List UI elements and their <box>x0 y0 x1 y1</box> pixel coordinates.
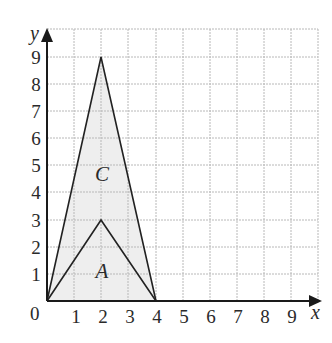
y-tick: 7 <box>31 101 41 122</box>
coordinate-diagram: y x 0 1 2 3 4 5 6 7 8 9 1 2 3 4 5 6 7 8 … <box>0 0 332 343</box>
x-tick: 1 <box>71 306 81 327</box>
x-tick: 8 <box>260 306 270 327</box>
x-tick-labels: 1 2 3 4 5 6 7 8 9 <box>71 306 297 327</box>
x-tick: 4 <box>152 306 162 327</box>
y-tick: 3 <box>31 210 41 231</box>
y-tick: 1 <box>31 264 41 285</box>
y-tick: 4 <box>31 182 41 203</box>
y-tick: 8 <box>31 74 41 95</box>
y-tick: 2 <box>31 237 41 258</box>
x-tick: 2 <box>98 306 108 327</box>
y-axis-label: y <box>28 22 39 45</box>
origin-label: 0 <box>30 303 40 324</box>
shape-label-a: A <box>94 259 109 283</box>
x-tick: 9 <box>287 306 297 327</box>
y-tick-labels: 1 2 3 4 5 6 7 8 9 <box>31 47 41 285</box>
y-tick: 6 <box>31 128 41 149</box>
y-tick: 5 <box>31 155 41 176</box>
x-tick: 7 <box>233 306 243 327</box>
shape-label-c: C <box>95 162 110 186</box>
x-tick: 6 <box>206 306 216 327</box>
y-axis-arrow-icon <box>41 28 53 42</box>
y-tick: 9 <box>31 47 41 68</box>
x-tick: 3 <box>125 306 135 327</box>
x-tick: 5 <box>179 306 189 327</box>
x-axis-label: x <box>310 301 320 323</box>
